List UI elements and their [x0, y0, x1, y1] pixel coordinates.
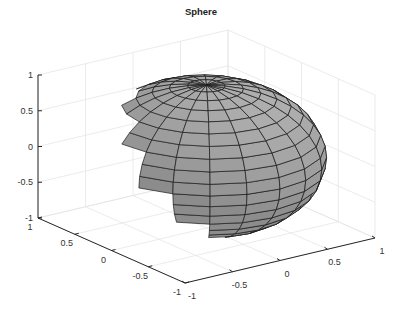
surface-patch — [210, 194, 247, 206]
surface-patch — [210, 158, 245, 172]
surface-patch — [209, 145, 242, 159]
x-tick-label: 0.5 — [328, 257, 341, 267]
surface-patch — [173, 170, 210, 184]
x-tick-label: 0 — [284, 269, 289, 279]
y-tick-label: 0.5 — [60, 238, 73, 248]
y-tick-label: -0.5 — [132, 271, 148, 281]
x-tick-label: -1 — [188, 291, 196, 301]
y-axis-ticks: 10.50-0.5-1 — [27, 217, 189, 297]
x-tick-label: 1 — [379, 246, 384, 256]
surface-patch — [183, 121, 209, 134]
figure: Sphere -1-0.500.51 10.50-0.5-1 -1-0.500.… — [0, 0, 402, 311]
surface-patch — [210, 183, 247, 196]
z-tick-label: 1 — [28, 70, 33, 80]
y-tick-label: 0 — [101, 255, 106, 265]
surface-patch — [210, 170, 247, 184]
z-tick-label: 0 — [28, 142, 33, 152]
surface-patch — [209, 133, 239, 147]
surface-patch — [177, 145, 210, 160]
x-tick-label: -0.5 — [232, 280, 248, 290]
plot-area: -1-0.500.51 10.50-0.5-1 -1-0.500.51 — [0, 0, 402, 311]
surface-patch — [179, 132, 209, 146]
z-tick-label: 0.5 — [20, 106, 33, 116]
chart-title: Sphere — [0, 6, 402, 17]
x-axis-ticks: -1-0.500.51 — [182, 236, 385, 301]
y-tick-label: -1 — [173, 287, 181, 297]
sphere-surface — [122, 75, 327, 238]
y-tick-label: 1 — [27, 222, 32, 232]
surface-patch — [174, 157, 209, 172]
z-tick-label: -0.5 — [17, 177, 33, 187]
